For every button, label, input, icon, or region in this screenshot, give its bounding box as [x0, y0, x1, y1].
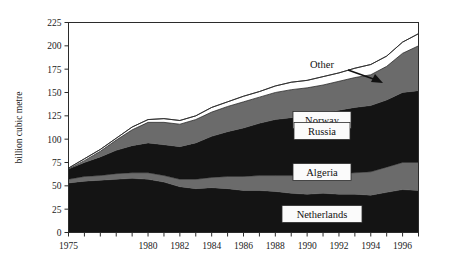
- y-tick-label: 200: [47, 41, 62, 51]
- x-tick-label: 1990: [298, 241, 317, 251]
- y-tick-label: 0: [57, 228, 62, 238]
- y-tick-label: 25: [52, 205, 62, 215]
- series-label-text: Russia: [308, 126, 336, 137]
- series-label-algeria: Algeria: [293, 164, 351, 181]
- y-tick-label: 150: [47, 88, 62, 98]
- x-tick-label: 1984: [202, 241, 221, 251]
- x-axis-group: 1975198019821984198619881990199219941996: [59, 233, 419, 251]
- chart-canvas: 0255075100125150175200225 19751980198219…: [0, 0, 449, 270]
- y-tick-label: 100: [47, 135, 62, 145]
- y-tick-label: 50: [52, 181, 62, 191]
- y-tick-label: 225: [47, 18, 62, 28]
- callout-other-label: Other: [310, 59, 334, 70]
- x-tick-label: 1996: [393, 241, 412, 251]
- series-label-text: Algeria: [306, 167, 338, 178]
- x-tick-label: 1982: [170, 241, 189, 251]
- y-axis-title: billion cubic metre: [14, 92, 24, 164]
- x-tick-label: 1992: [329, 241, 348, 251]
- x-tick-label: 1988: [266, 241, 285, 251]
- y-tick-label: 175: [47, 65, 62, 75]
- series-label-text: Netherlands: [297, 209, 348, 220]
- x-tick-label: 1980: [139, 241, 158, 251]
- area-series-group: [69, 34, 419, 233]
- y-axis-title-group: billion cubic metre: [14, 92, 24, 164]
- stacked-area-chart: 0255075100125150175200225 19751980198219…: [0, 0, 449, 270]
- y-tick-label: 125: [47, 111, 62, 121]
- y-axis-group: 0255075100125150175200225: [47, 18, 68, 238]
- y-tick-label: 75: [52, 158, 62, 168]
- x-tick-label: 1975: [59, 241, 78, 251]
- series-label-netherlands: Netherlands: [282, 206, 362, 223]
- x-tick-label: 1994: [361, 241, 380, 251]
- x-tick-label: 1986: [234, 241, 253, 251]
- series-label-russia: Russia: [294, 123, 350, 140]
